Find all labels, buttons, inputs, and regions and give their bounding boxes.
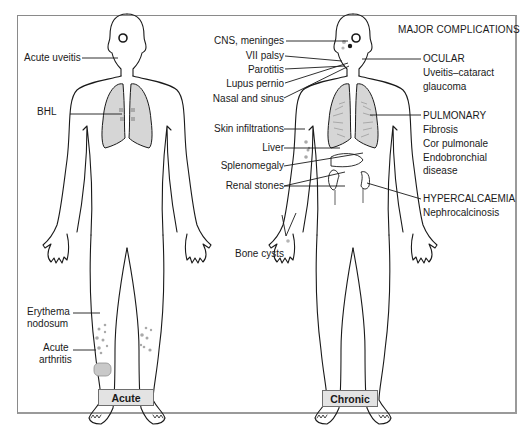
label-ocular-item-2: glaucoma <box>423 81 466 93</box>
label-skin-infiltrations: Skin infiltrations <box>214 123 284 135</box>
label-pulmonary-item-1: Fibrosis <box>423 124 458 136</box>
label-bone-cysts: Bone cysts <box>235 248 284 260</box>
label-bhl: BHL <box>37 106 56 118</box>
label-lupus-pernio: Lupus pernio <box>226 78 284 90</box>
label-pulmonary-item-3: Endobronchial <box>423 152 487 164</box>
label-ocular-item-1: Uveitis–cataract <box>423 67 494 79</box>
label-pulmonary-heading: PULMONARY <box>423 110 486 122</box>
label-acute-uveitis: Acute uveitis <box>24 52 81 64</box>
label-ocular-heading: OCULAR <box>423 53 465 65</box>
label-acute-arthritis-line2: arthritis <box>39 354 72 366</box>
label-hypercalcaemia-heading: HYPERCALCAEMIA <box>423 193 515 205</box>
label-vii-palsy: VII palsy <box>246 50 284 62</box>
caption-chronic: Chronic <box>322 390 378 407</box>
diagram-canvas: MAJOR COMPLICATIONS Acute uveitis BHL Er… <box>0 0 530 429</box>
label-erythema-nodosum-line2: nodosum <box>27 318 68 330</box>
label-pulmonary-item-2: Cor pulmonale <box>423 138 488 150</box>
label-nasal-and-sinus: Nasal and sinus <box>213 93 284 105</box>
label-pulmonary-item-4: disease <box>423 165 457 177</box>
caption-acute: Acute <box>98 389 154 406</box>
label-hypercalcaemia-item-1: Nephrocalcinosis <box>423 207 499 219</box>
diagram-title: MAJOR COMPLICATIONS <box>398 24 520 35</box>
label-cns-meninges: CNS, meninges <box>214 35 284 47</box>
label-liver: Liver <box>262 142 284 154</box>
label-renal-stones: Renal stones <box>226 180 284 192</box>
label-acute-arthritis-line1: Acute <box>43 342 69 354</box>
label-splenomegaly: Splenomegaly <box>221 160 284 172</box>
label-parotitis: Parotitis <box>248 64 284 76</box>
chronic-body-figure <box>269 14 437 424</box>
label-erythema-nodosum-line1: Erythema <box>27 306 70 318</box>
